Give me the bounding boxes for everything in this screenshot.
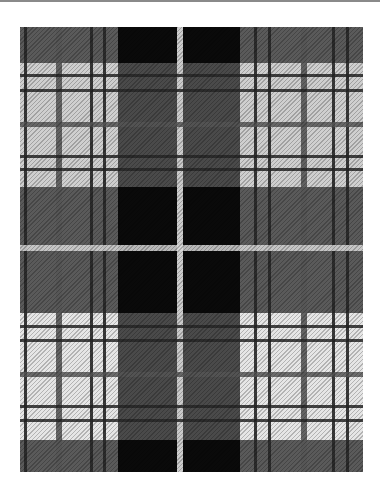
top-rule bbox=[0, 0, 380, 2]
horizontal-stripe bbox=[20, 74, 363, 77]
horizontal-stripe bbox=[20, 89, 363, 92]
horizontal-stripe bbox=[20, 325, 363, 328]
horizontal-stripe bbox=[20, 372, 363, 377]
horizontal-lines-layer bbox=[20, 27, 363, 472]
tartan-fabric bbox=[20, 27, 363, 472]
horizontal-stripe bbox=[20, 339, 363, 342]
horizontal-stripe bbox=[20, 155, 363, 158]
horizontal-stripe bbox=[20, 405, 363, 408]
horizontal-stripe bbox=[20, 419, 363, 422]
horizontal-stripe bbox=[20, 245, 363, 251]
horizontal-stripe bbox=[20, 122, 363, 127]
horizontal-stripe bbox=[20, 168, 363, 171]
